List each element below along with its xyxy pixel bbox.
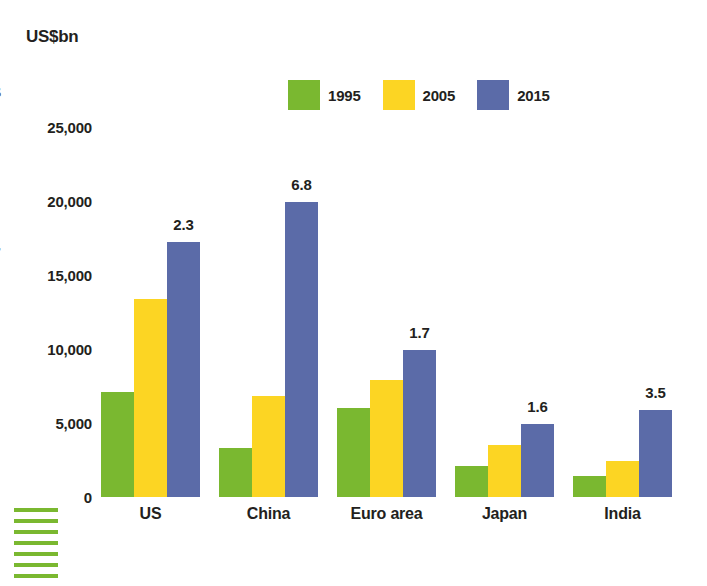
decorative-rule xyxy=(14,574,58,578)
bar-group-china xyxy=(219,0,318,497)
bar-euro-area-2015[interactable] xyxy=(403,350,436,497)
bar-japan-1995[interactable] xyxy=(455,466,488,497)
decorative-rule xyxy=(14,541,58,545)
bar-group-india xyxy=(573,0,672,497)
decorative-rule xyxy=(14,552,58,556)
bar-euro-area-2005[interactable] xyxy=(370,380,403,497)
x-axis-labels: USChinaEuro areaJapanIndia xyxy=(100,505,692,535)
decorative-rule xyxy=(14,530,58,534)
x-axis-label-japan: Japan xyxy=(482,505,527,523)
x-axis-label-us: US xyxy=(140,505,162,523)
y-tick-label-0: 0 xyxy=(0,489,92,506)
y-axis-ticks: 05,00010,00015,00020,00025,000 xyxy=(0,0,92,586)
bar-us-2005[interactable] xyxy=(134,299,167,497)
bar-india-2015[interactable] xyxy=(639,410,672,497)
bar-us-2015[interactable] xyxy=(167,242,200,497)
decorative-rule xyxy=(14,519,58,523)
bar-india-2005[interactable] xyxy=(606,461,639,497)
y-tick-label-20000: 20,000 xyxy=(0,193,92,210)
plot-bars-area: 2.36.81.71.63.5 xyxy=(100,0,692,497)
x-axis-label-euro-area: Euro area xyxy=(350,505,422,523)
bar-japan-2015[interactable] xyxy=(521,424,554,497)
decorative-rule xyxy=(14,508,58,512)
bar-japan-2005[interactable] xyxy=(488,445,521,497)
bar-china-2005[interactable] xyxy=(252,396,285,497)
bar-euro-area-1995[interactable] xyxy=(337,408,370,497)
bar-group-euro-area xyxy=(337,0,436,497)
y-tick-label-10000: 10,000 xyxy=(0,341,92,358)
bar-group-us xyxy=(101,0,200,497)
y-tick-label-15000: 15,000 xyxy=(0,267,92,284)
bar-india-1995[interactable] xyxy=(573,476,606,497)
y-tick-label-5000: 5,000 xyxy=(0,415,92,432)
bar-chart: 05,00010,00015,00020,00025,000 2.36.81.7… xyxy=(0,0,707,586)
bar-china-1995[interactable] xyxy=(219,448,252,497)
bar-china-2015[interactable] xyxy=(285,202,318,497)
x-axis-label-china: China xyxy=(247,505,290,523)
decorative-rule xyxy=(14,563,58,567)
bar-us-1995[interactable] xyxy=(101,392,134,497)
decorative-green-rules xyxy=(14,508,58,585)
bar-group-japan xyxy=(455,0,554,497)
x-axis-label-india: India xyxy=(604,505,640,523)
y-tick-label-25000: 25,000 xyxy=(0,119,92,136)
